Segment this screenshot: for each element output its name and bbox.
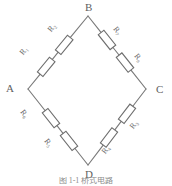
vertex-label-C: C — [156, 84, 163, 95]
branch-DA — [28, 89, 88, 165]
wire-R1-to-R2 — [52, 52, 58, 59]
wire-C-to-R3 — [133, 89, 146, 106]
wire-R2-to-B — [70, 16, 88, 37]
wire-R5-to-R6 — [57, 126, 63, 134]
wire-B-to-R7 — [88, 16, 101, 32]
wire-R8-to-C — [131, 70, 146, 89]
wire-R7-to-R8 — [113, 48, 119, 56]
resistor-R1-body — [37, 57, 55, 76]
resistor-R6-body — [42, 108, 59, 127]
resistor-R5-body — [60, 131, 77, 150]
wire-R6-to-A — [28, 89, 45, 111]
vertex-label-A: A — [6, 83, 14, 94]
resistor-R2-body — [55, 35, 73, 54]
wire-R3-to-R4 — [115, 122, 121, 130]
figure-caption: 图 1-1 桥式电路 — [0, 177, 172, 186]
resistor-R8-body — [116, 53, 133, 72]
circuit-figure: A B C D R₁ R₂ R₇ R₈ R₃ R₄ R₅ R₆ 图 1-1 桥式… — [0, 0, 172, 186]
circuit-diagram-canvas — [0, 0, 172, 186]
wire-A-to-R1 — [28, 74, 40, 89]
wire-D-to-R5 — [75, 149, 88, 166]
vertex-label-B: B — [85, 2, 92, 13]
